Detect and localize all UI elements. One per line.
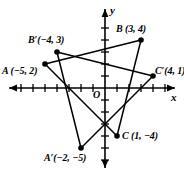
x-axis-label: x bbox=[171, 92, 177, 103]
point-label-B: B (3, 4) bbox=[116, 24, 146, 34]
point-label-A: A (−5, 2) bbox=[2, 66, 37, 76]
point-B-prime bbox=[54, 49, 60, 55]
point-A-prime bbox=[78, 145, 84, 151]
coordinate-plane-figure: y x O A (−5, 2) B (3, 4) C (1, −4) A′(−2… bbox=[0, 0, 184, 174]
coordinate-plot-svg bbox=[0, 0, 184, 174]
point-label-A-prime: A′(−2, −5) bbox=[44, 153, 86, 163]
point-C bbox=[114, 133, 120, 139]
origin-label: O bbox=[93, 90, 100, 100]
x-axis bbox=[9, 85, 175, 92]
y-axis-label: y bbox=[110, 5, 115, 16]
point-label-C: C (1, −4) bbox=[122, 131, 158, 141]
point-A bbox=[42, 61, 48, 67]
point-label-C-prime: C′(4, 1) bbox=[155, 66, 184, 76]
point-label-B-prime: B′(−4, 3) bbox=[28, 35, 64, 45]
point-B bbox=[138, 37, 144, 43]
